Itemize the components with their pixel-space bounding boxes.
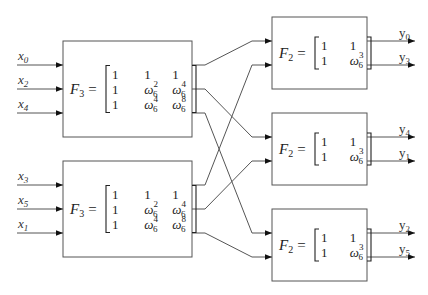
matrix-entry: 1 — [321, 149, 328, 164]
matrix-entry: 1 — [112, 217, 119, 232]
input-label-x0: x0 — [17, 48, 29, 65]
wire-f3-bottom-out0-to-f2-1-in1 — [192, 65, 272, 185]
matrix-entry: 1 — [321, 53, 328, 68]
matrix-entry: 1 — [144, 187, 151, 202]
output-label-y5: y5 — [399, 241, 411, 258]
matrix-entry: 1 — [112, 187, 119, 202]
input-label-x3: x3 — [17, 168, 29, 185]
output-label-y4: y4 — [399, 121, 411, 138]
matrix-entry: 1 — [112, 82, 119, 97]
matrix-entry: ω86 — [172, 214, 186, 234]
output-label-y0: y0 — [399, 25, 411, 42]
matrix-entry: 1 — [172, 67, 179, 82]
wire-f3-bottom-out2-to-f2-3-in1 — [192, 233, 272, 257]
matrix-entry: 1 — [350, 38, 357, 53]
output-label-y1: y1 — [399, 145, 410, 162]
wire-f3-top-out2-to-f2-3-in0 — [192, 113, 272, 233]
matrix-entry: 1 — [350, 134, 357, 149]
matrix-entry: 1 — [321, 230, 328, 245]
matrix-entry: 1 — [172, 187, 179, 202]
input-label-x4: x4 — [17, 96, 29, 113]
matrix-entry: 1 — [112, 97, 119, 112]
matrix-entry: 1 — [350, 230, 357, 245]
right-bracket — [367, 133, 371, 165]
matrix-entry: ω36 — [350, 146, 364, 166]
matrix-entry: ω36 — [350, 50, 364, 70]
wire-f3-top-out0-to-f2-1-in0 — [192, 41, 272, 65]
matrix-entry: 1 — [112, 202, 119, 217]
matrix-entry: ω46 — [144, 94, 158, 114]
input-label-x1: x1 — [17, 216, 28, 233]
matrix-entry: ω86 — [172, 94, 186, 114]
matrix-entry: 1 — [144, 67, 151, 82]
matrix-entry: 1 — [321, 134, 328, 149]
output-label-y2: y2 — [399, 217, 410, 234]
matrix-entry: ω36 — [350, 242, 364, 262]
fft-diagram: x0x2x4x3x5x1 y0y3y4y1y2y5 F3=1111ω26ω461… — [0, 0, 428, 295]
matrix-entry: 1 — [112, 67, 119, 82]
matrix-entry: 1 — [321, 245, 328, 260]
output-label-y3: y3 — [399, 49, 411, 66]
right-bracket — [367, 37, 371, 69]
right-bracket — [367, 229, 371, 261]
matrix-entry: 1 — [321, 38, 328, 53]
input-label-x2: x2 — [17, 72, 29, 89]
matrix-entry: ω46 — [144, 214, 158, 234]
input-label-x5: x5 — [17, 192, 29, 209]
